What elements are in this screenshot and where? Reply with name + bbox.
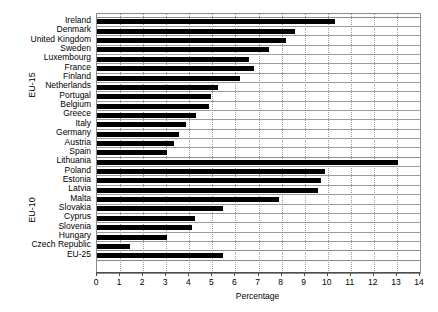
row-separator — [97, 138, 420, 139]
bar — [97, 132, 179, 137]
category-label: Czech Republic — [0, 240, 91, 249]
x-tick — [396, 272, 397, 276]
row-separator — [97, 119, 420, 120]
bar — [97, 141, 174, 146]
x-tick-label: 13 — [386, 277, 406, 287]
bar — [97, 94, 211, 99]
row-separator — [97, 222, 420, 223]
x-tick-label: 4 — [178, 277, 198, 287]
row-separator — [97, 185, 420, 186]
row-separator — [97, 213, 420, 214]
bar — [97, 150, 167, 155]
bar — [97, 216, 195, 221]
bar — [97, 57, 249, 62]
row-separator — [97, 175, 420, 176]
bar — [97, 76, 240, 81]
group-separator — [97, 260, 420, 261]
gridline-5 — [212, 14, 213, 273]
bar — [97, 19, 335, 24]
row-separator — [97, 194, 420, 195]
x-tick-label: 10 — [317, 277, 337, 287]
category-label: Germany — [0, 128, 91, 137]
row-separator — [97, 82, 420, 83]
x-tick — [96, 272, 97, 276]
x-tick — [165, 272, 166, 276]
gridline-14 — [420, 14, 421, 273]
x-tick — [419, 272, 420, 276]
x-tick — [211, 272, 212, 276]
gridline-11 — [351, 14, 352, 273]
row-separator — [97, 73, 420, 74]
bar — [97, 169, 325, 174]
x-tick-label: 9 — [294, 277, 314, 287]
row-separator — [97, 91, 420, 92]
row-separator — [97, 232, 420, 233]
bar — [97, 253, 223, 258]
x-tick — [350, 272, 351, 276]
gridline-6 — [235, 14, 236, 273]
plot-area — [96, 13, 421, 274]
row-separator — [97, 101, 420, 102]
x-tick-label: 2 — [132, 277, 152, 287]
row-separator — [97, 241, 420, 242]
bar — [97, 66, 254, 71]
x-tick — [281, 272, 282, 276]
x-tick — [258, 272, 259, 276]
group-separator — [97, 250, 420, 251]
x-tick — [327, 272, 328, 276]
category-label: Cyprus — [0, 212, 91, 221]
x-tick-label: 14 — [409, 277, 429, 287]
category-label: Luxembourg — [0, 53, 91, 62]
x-tick-label: 11 — [340, 277, 360, 287]
row-separator — [97, 63, 420, 64]
bar — [97, 206, 223, 211]
bar — [97, 197, 279, 202]
bar — [97, 113, 196, 118]
category-axis-labels: IrelandDenmarkUnited KingdomSwedenLuxemb… — [0, 13, 93, 272]
x-tick — [304, 272, 305, 276]
gridline-8 — [282, 14, 283, 273]
category-label: Denmark — [0, 25, 91, 34]
gridline-12 — [374, 14, 375, 273]
x-tick — [142, 272, 143, 276]
bar — [97, 244, 130, 249]
bar — [97, 38, 286, 43]
bar — [97, 29, 295, 34]
row-separator — [97, 166, 420, 167]
category-label: Latvia — [0, 184, 91, 193]
x-tick — [373, 272, 374, 276]
x-tick-label: 8 — [271, 277, 291, 287]
bar — [97, 235, 167, 240]
x-tick-label: 12 — [363, 277, 383, 287]
bar — [97, 104, 209, 109]
category-label: Lithuania — [0, 156, 91, 165]
x-tick-label: 5 — [201, 277, 221, 287]
gridline-4 — [189, 14, 190, 273]
bar — [97, 225, 192, 230]
row-separator — [97, 54, 420, 55]
gridline-13 — [397, 14, 398, 273]
row-separator — [97, 110, 420, 111]
bar-chart: EU-15 EU-10 IrelandDenmarkUnited Kingdom… — [0, 0, 438, 312]
bar — [97, 85, 218, 90]
group-separator — [97, 17, 420, 18]
x-tick-label: 7 — [248, 277, 268, 287]
x-axis-title: Percentage — [96, 291, 419, 301]
row-separator — [97, 129, 420, 130]
x-tick — [234, 272, 235, 276]
bar — [97, 160, 398, 165]
gridline-9 — [305, 14, 306, 273]
x-tick-label: 3 — [155, 277, 175, 287]
x-tick-label: 1 — [109, 277, 129, 287]
row-separator — [97, 204, 420, 205]
row-separator — [97, 35, 420, 36]
x-tick — [188, 272, 189, 276]
row-separator — [97, 26, 420, 27]
gridline-7 — [259, 14, 260, 273]
bar — [97, 178, 321, 183]
row-separator — [97, 45, 420, 46]
gridline-10 — [328, 14, 329, 273]
group-separator — [97, 157, 420, 158]
category-label: EU-25 — [0, 250, 91, 259]
x-tick-label: 0 — [86, 277, 106, 287]
